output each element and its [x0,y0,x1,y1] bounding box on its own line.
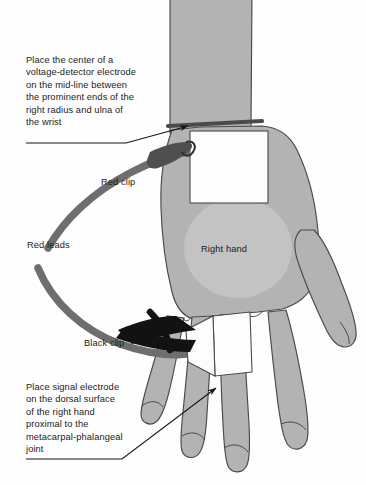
wrist-callout-leader [26,126,188,143]
index-finger-shape [268,310,308,449]
hand-electrode-assembly [116,312,252,376]
hand-electrode-patch [213,312,252,376]
hand-electrode-instruction-text: Place signal electrode on the dorsal sur… [26,381,186,455]
red-leads-label: Red leads [27,239,70,251]
wrist-electrode-patch [190,131,268,203]
red-clip-label: Red clip [101,176,135,188]
right-hand-label: Right hand [201,243,247,255]
black-clip-label: Black clip [84,337,124,349]
wrist-electrode-instruction-text: Place the center of a voltage-detector e… [26,54,186,128]
electrode-placement-figure: Place the center of a voltage-detector e… [0,0,366,485]
